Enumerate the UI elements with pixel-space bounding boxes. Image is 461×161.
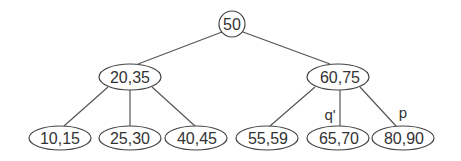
node-label: 80,90: [384, 130, 424, 147]
node-label: 55,59: [248, 130, 288, 147]
edge-right-leaf6: [360, 87, 396, 126]
node-label: 60,75: [320, 69, 360, 86]
edge-label-q-prime: q': [324, 106, 335, 123]
edge-root-right: [243, 32, 330, 64]
node-label: 50: [223, 16, 241, 33]
edge-left-leaf1: [64, 87, 108, 126]
node-label: 20,35: [110, 69, 150, 86]
leaf-node-3: 40,45: [165, 126, 227, 150]
leaf-node-5: 65,70: [307, 126, 369, 150]
node-left: 20,35: [99, 64, 161, 90]
node-label: 10,15: [40, 130, 80, 147]
tree-diagram: 50 20,35 60,75 10,15 25,30 40,45 55,59 6…: [0, 0, 461, 161]
leaf-node-1: 10,15: [29, 126, 91, 150]
node-root: 50: [219, 11, 245, 37]
edge-label-p: p: [399, 104, 407, 121]
leaf-node-2: 25,30: [99, 126, 161, 150]
leaf-node-6: 80,90: [372, 126, 434, 150]
node-label: 25,30: [110, 130, 150, 147]
node-right: 60,75: [307, 64, 369, 90]
edge-right-leaf4: [270, 87, 315, 126]
edge-root-left: [138, 32, 222, 64]
node-label: 65,70: [319, 130, 359, 147]
node-label: 40,45: [177, 130, 217, 147]
leaf-node-4: 55,59: [236, 126, 298, 150]
edge-left-leaf3: [152, 87, 195, 126]
